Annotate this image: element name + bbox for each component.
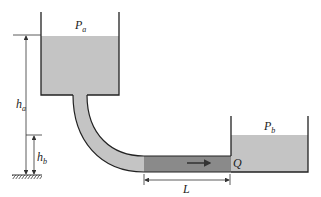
right-tank-water [231,135,308,172]
label-hb: hb [37,151,47,166]
diagram-canvas: Pa Pb ha hb Q L [0,0,321,197]
label-pb: Pb [264,120,275,135]
label-ha: ha [16,98,26,113]
label-l: L [183,183,190,195]
label-pa: Pa [75,19,86,34]
curved-pipe [73,95,144,172]
diagram-svg [0,0,321,197]
label-q: Q [233,157,242,169]
ground-datum-icon [12,175,42,179]
horizontal-pipe-section [144,156,231,172]
left-tank-water [41,36,119,95]
